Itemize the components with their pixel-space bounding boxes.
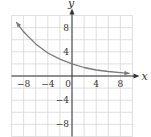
y-tick-label: 8 — [63, 23, 69, 33]
y-axis-label: y — [67, 0, 75, 10]
x-tick-label: 8 — [118, 79, 124, 89]
curve-arrow-right-icon — [124, 71, 129, 76]
x-tick-label: −8 — [17, 79, 31, 89]
y-tick-label: −8 — [56, 119, 70, 129]
x-tick-label: −4 — [41, 79, 55, 89]
x-axis-label: x — [142, 70, 149, 83]
curve-layer — [16, 22, 129, 75]
x-axis-arrow-icon — [134, 74, 140, 79]
labels: −8−404884−4−8xy — [17, 0, 149, 129]
y-tick-label: −4 — [56, 95, 70, 105]
chart: −8−404884−4−8xy — [0, 0, 151, 137]
x-tick-label: 4 — [93, 79, 99, 89]
x-tick-label: 0 — [65, 79, 71, 89]
y-tick-label: 4 — [63, 47, 69, 57]
curve-line — [16, 22, 129, 73]
